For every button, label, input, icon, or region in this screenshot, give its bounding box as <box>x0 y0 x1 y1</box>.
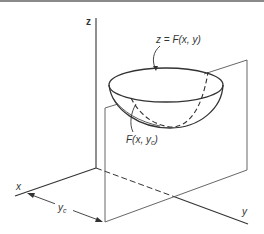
yc-arrowhead-left <box>27 193 35 198</box>
x-axis <box>15 168 96 196</box>
surface-label: z = F(x, y) <box>155 34 201 45</box>
y-axis <box>175 197 248 224</box>
surface-section-diagram: z x y z = F(x, y) F(x, yc) yc <box>0 0 264 234</box>
surface-bowl <box>109 85 223 128</box>
y-axis-hidden-segment <box>96 168 175 197</box>
surface-label-leader <box>153 46 160 68</box>
surface-rim <box>109 68 223 102</box>
section-label: F(x, yc) <box>126 134 158 146</box>
z-axis-label: z <box>86 16 91 27</box>
cutting-plane-top-left-edge <box>105 104 118 108</box>
y-axis-label: y <box>241 206 248 217</box>
yc-arrowhead-right <box>95 217 103 222</box>
x-axis-label: x <box>15 181 22 192</box>
